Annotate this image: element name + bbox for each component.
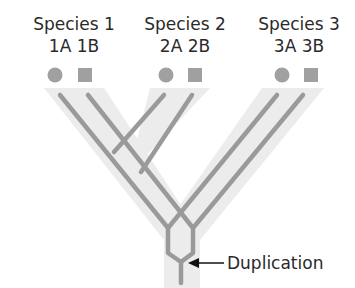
gene-marker-1A [48, 68, 63, 83]
species-2-label: Species 2 [144, 14, 226, 34]
species-1-genes-label: 1A 1B [49, 36, 99, 56]
species-1-label: Species 1 [33, 14, 115, 34]
gene-marker-3A [275, 68, 290, 83]
gene-tree-diagram: Species 1 1A 1B Species 2 2A 2B Species … [0, 0, 355, 288]
species-2-genes-label: 2A 2B [160, 36, 210, 56]
gene-marker-2B [188, 68, 202, 82]
gene-marker-3B [304, 68, 318, 82]
species-3-genes-label: 3A 3B [274, 36, 324, 56]
gene-marker-2A [159, 68, 174, 83]
duplication-label: Duplication [227, 253, 323, 273]
gene-marker-1B [78, 68, 92, 82]
gene-markers [48, 68, 319, 83]
species-3-label: Species 3 [258, 14, 340, 34]
